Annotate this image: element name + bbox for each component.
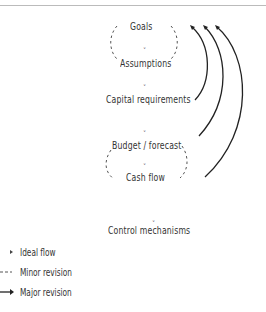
legend-item-minor-revision: Minor revision: [16, 266, 83, 278]
ideal-flow-arrowhead: ˇ: [143, 131, 146, 138]
major-arrow-capital-to-goals: [192, 27, 207, 100]
node-cash-flow: Cash flow: [126, 171, 165, 183]
node-budget-forecast: Budget / forecast: [112, 139, 181, 151]
ideal-flow-arrowhead: ˇ: [143, 85, 146, 92]
major-arrow-budget-to-goals: [199, 27, 223, 136]
major-arrow-cashflow-to-goals: [205, 27, 243, 177]
node-assumptions: Assumptions: [120, 57, 171, 69]
ideal-flow-arrowhead: ˇ: [143, 164, 146, 171]
ideal-flow-arrowhead: ˇ: [143, 48, 146, 55]
legend-symbols: [0, 250, 14, 295]
node-capital-requirements: Capital requirements: [106, 93, 191, 105]
major-revision-arrows: [192, 27, 243, 177]
legend-item-ideal-flow: Ideal flow: [16, 246, 63, 258]
node-control-mechanisms: Control mechanisms: [108, 224, 190, 236]
legend-label: Minor revision: [20, 267, 72, 278]
legend-item-major-revision: Major revision: [16, 286, 83, 298]
legend-label: Major revision: [20, 287, 72, 298]
legend-label: Ideal flow: [20, 247, 56, 258]
node-goals: Goals: [130, 20, 152, 32]
